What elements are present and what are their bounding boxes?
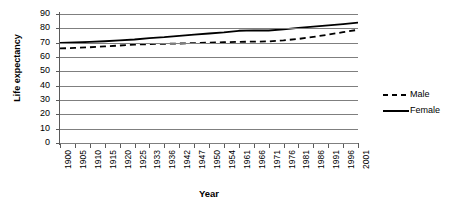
plot-area (60, 14, 358, 143)
y-axis-tick-label: 40 (28, 81, 50, 90)
x-axis-tick-label: 1996 (347, 150, 356, 169)
y-axis-tick-label: 80 (28, 23, 50, 32)
y-axis-tick (56, 129, 60, 130)
x-axis-tick (254, 144, 255, 148)
x-axis-tick-label: 1947 (198, 150, 207, 169)
y-axis-tick-label: 60 (28, 52, 50, 61)
y-axis-tick-label: 70 (28, 38, 50, 47)
y-axis-tick (56, 14, 60, 15)
x-axis-tick (328, 144, 329, 148)
y-axis-tick-label: 30 (28, 95, 50, 104)
x-axis-tick-label: 1900 (64, 150, 73, 169)
y-axis-tick (56, 100, 60, 101)
x-axis-tick (224, 144, 225, 148)
x-axis-tick (313, 144, 314, 148)
y-axis-tick (56, 43, 60, 44)
x-axis-tick-label: 2001 (362, 150, 371, 169)
gridline (60, 129, 358, 130)
x-axis-tick-label: 1910 (94, 150, 103, 169)
x-axis-tick (239, 144, 240, 148)
x-axis-tick-label: 1981 (302, 150, 311, 169)
gridline (60, 71, 358, 72)
x-axis-tick (209, 144, 210, 148)
y-axis-tick-label: 20 (28, 109, 50, 118)
x-axis-tick (75, 144, 76, 148)
x-axis-tick-label: 1933 (153, 150, 162, 169)
y-axis-tick (56, 114, 60, 115)
y-axis-tick (56, 86, 60, 87)
x-axis-tick (269, 144, 270, 148)
x-axis-tick-label: 1915 (109, 150, 118, 169)
life-expectancy-line-chart: Life expectancy 9080706050403020100 1900… (0, 0, 462, 210)
y-axis-tick-label: 50 (28, 66, 50, 75)
x-axis-tick-label: 1961 (243, 150, 252, 169)
x-axis-tick-label: 1925 (139, 150, 148, 169)
legend-label: Male (409, 89, 430, 99)
x-axis-tick-label: 1942 (183, 150, 192, 169)
y-axis-tick (56, 143, 60, 144)
x-axis-tick-label: 1986 (317, 150, 326, 169)
x-axis-tick-label: 1991 (332, 150, 341, 169)
gridline (60, 86, 358, 87)
y-axis-tick-label: 90 (28, 9, 50, 18)
x-axis-tick (105, 144, 106, 148)
x-axis-tick-label: 1920 (124, 150, 133, 169)
x-axis-tick (135, 144, 136, 148)
gridline (60, 43, 358, 44)
chart-legend: MaleFemale (383, 86, 462, 118)
legend-item-male: Male (383, 86, 462, 102)
x-axis-tick-label: 1966 (258, 150, 267, 169)
y-axis-tick-label: 0 (28, 138, 50, 147)
x-axis-tick-label: 1936 (168, 150, 177, 169)
x-axis-tick-label: 1905 (79, 150, 88, 169)
x-axis-tick (298, 144, 299, 148)
series-lines (60, 14, 358, 143)
gridline (60, 100, 358, 101)
y-axis-title: Life expectancy (12, 8, 22, 128)
x-axis-tick-label: 1976 (288, 150, 297, 169)
x-axis-tick-label: 1971 (273, 150, 282, 169)
series-line-male (60, 30, 358, 49)
x-axis-tick (179, 144, 180, 148)
y-axis-tick-labels: 9080706050403020100 (26, 0, 50, 210)
x-axis-title: Year (0, 188, 418, 199)
gridline (60, 114, 358, 115)
legend-item-female: Female (383, 102, 462, 118)
legend-swatch-icon (383, 90, 409, 99)
y-axis-tick (56, 28, 60, 29)
series-line-female (60, 23, 358, 43)
x-axis-tick (90, 144, 91, 148)
x-axis-tick (149, 144, 150, 148)
y-axis-tick (56, 57, 60, 58)
x-axis-tick (164, 144, 165, 148)
x-axis-tick (358, 144, 359, 148)
gridline (60, 28, 358, 29)
y-axis-tick (56, 71, 60, 72)
gridline (60, 57, 358, 58)
x-axis-tick (60, 144, 61, 148)
x-axis-tick (120, 144, 121, 148)
gridline (60, 14, 358, 15)
legend-label: Female (409, 105, 440, 115)
x-axis-tick (343, 144, 344, 148)
x-axis-tick (194, 144, 195, 148)
x-axis-tick-label: 1954 (228, 150, 237, 169)
x-axis-tick-label: 1950 (213, 150, 222, 169)
x-axis-tick (284, 144, 285, 148)
y-axis-tick-label: 10 (28, 124, 50, 133)
legend-swatch-icon (383, 106, 409, 115)
